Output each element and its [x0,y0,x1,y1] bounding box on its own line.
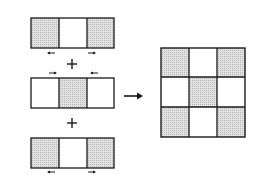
arrow-left-icon [47,52,55,55]
cell-shaded [161,48,189,77]
cell-shaded [161,107,189,137]
cell-shaded [31,18,59,48]
cell-white [189,48,217,77]
cell-shaded [87,138,114,168]
cell-shaded [189,77,217,107]
strip-middle [31,78,114,108]
cell-white [59,138,87,168]
cell-shaded [59,78,87,108]
cell-white [31,78,59,108]
arrow-right-icon [88,52,96,55]
strip-top [31,18,114,48]
cell-white [59,18,87,48]
arrow-right-icon [49,72,57,75]
plus-icon [67,118,77,128]
cell-shaded [87,18,114,48]
cell-shaded [31,138,59,168]
result-arrow-icon [124,93,143,100]
cell-white [87,78,114,108]
result-grid [161,48,245,137]
strip-bottom [31,138,114,168]
cell-shaded [217,107,245,137]
plus-icon [67,59,77,69]
cell-white [217,77,245,107]
cell-white [189,107,217,137]
arrow-left-icon [47,171,55,174]
arrow-left-icon [90,72,98,75]
cell-shaded [217,48,245,77]
arrow-right-icon [88,171,96,174]
cell-white [161,77,189,107]
diagram-canvas [0,0,255,179]
